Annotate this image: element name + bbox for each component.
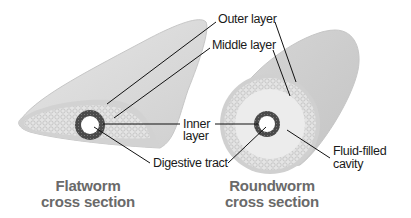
- flatworm-title-line2: cross section: [38, 194, 138, 210]
- flatworm-title: Flatworm cross section: [38, 178, 138, 210]
- flatworm-title-line1: Flatworm: [38, 178, 138, 194]
- roundworm-digestive-tract: [259, 116, 275, 132]
- flatworm-body: [19, 20, 207, 148]
- label-outer-layer: Outer layer: [218, 13, 277, 26]
- label-fluid-cavity-line2: cavity: [333, 158, 363, 171]
- label-middle-layer: Middle layer: [212, 39, 276, 52]
- roundworm-title: Roundworm cross section: [220, 178, 324, 210]
- label-digestive-tract: Digestive tract: [153, 157, 228, 170]
- roundworm-title-line2: cross section: [220, 194, 324, 210]
- roundworm-title-line1: Roundworm: [220, 178, 324, 194]
- flatworm-digestive-tract: [81, 116, 99, 134]
- label-inner-layer-line2: layer: [183, 130, 209, 143]
